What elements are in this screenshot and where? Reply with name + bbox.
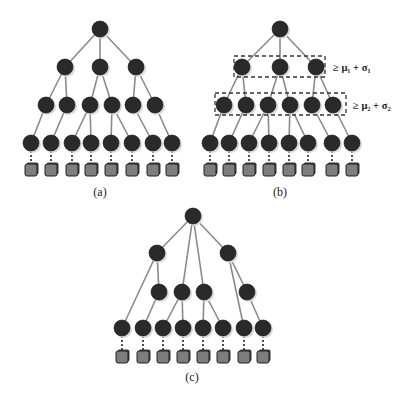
tree-node-level-2 <box>196 284 212 300</box>
leaf-square-icon <box>204 164 216 176</box>
tree-node-level-2 <box>174 284 190 300</box>
tree-node-level-1 <box>128 59 144 75</box>
tree-node-level-2 <box>282 97 298 113</box>
leaf-square-icon <box>238 351 250 363</box>
leaf-square-icon <box>257 351 269 363</box>
tree-node-level-3 <box>221 135 237 151</box>
leaf-square-icon <box>126 164 138 176</box>
leaf-square-icon <box>223 164 235 176</box>
leaf-square-icon <box>283 164 295 176</box>
tree-node-level-2 <box>59 97 75 113</box>
tree-node-level-3 <box>114 320 130 336</box>
threshold-label-1: ≥ μ₁ + σ₁ <box>333 62 371 73</box>
panel-b-thresholded-tree: ≥ μ₁ + σ₁≥ μ₂ + σ₂(b) <box>202 21 391 199</box>
tree-node-level-0 <box>92 21 108 37</box>
tree-edge <box>193 216 204 292</box>
leaf-square-icon <box>346 164 358 176</box>
nodes <box>114 208 273 338</box>
leaf-square-icon <box>105 164 117 176</box>
tree-node-level-3 <box>164 135 180 151</box>
tree-node-level-3 <box>23 135 39 151</box>
tree-node-level-1 <box>92 59 108 75</box>
leaf-square-icon <box>326 164 338 176</box>
tree-node-level-3 <box>43 135 59 151</box>
threshold-label-2: ≥ μ₂ + σ₂ <box>353 100 391 111</box>
leaf-square-icon <box>197 351 209 363</box>
leaf-square-icon <box>147 164 159 176</box>
panel-c-pruned-tree: (c) <box>114 208 273 384</box>
tree-node-level-2 <box>239 284 255 300</box>
leaf-square-icon <box>85 164 97 176</box>
tree-node-level-3 <box>215 320 231 336</box>
leaf-items <box>116 336 271 363</box>
tree-node-level-3 <box>145 135 161 151</box>
edges <box>210 29 352 143</box>
panel-caption-b: (b) <box>273 185 287 199</box>
tree-node-level-3 <box>281 135 297 151</box>
tree-node-level-1 <box>220 245 236 261</box>
tree-node-level-2 <box>216 97 232 113</box>
leaf-square-icon <box>157 351 169 363</box>
tree-node-level-0 <box>185 208 201 224</box>
leaf-square-icon <box>263 164 275 176</box>
leaf-square-icon <box>25 164 37 176</box>
leaf-square-icon <box>116 351 128 363</box>
hierarchy-diagram-figure: (a) ≥ μ₁ + σ₁≥ μ₂ + σ₂(b) (c) <box>0 0 414 398</box>
leaf-square-icon <box>66 164 78 176</box>
panel-caption-a: (a) <box>93 185 106 199</box>
tree-node-level-1 <box>308 59 324 75</box>
tree-node-level-2 <box>147 97 163 113</box>
tree-node-level-2 <box>38 97 54 113</box>
tree-node-level-3 <box>261 135 277 151</box>
tree-node-level-2 <box>238 97 254 113</box>
nodes <box>202 21 362 153</box>
tree-node-level-3 <box>155 320 171 336</box>
tree-node-level-1 <box>234 59 250 75</box>
leaf-square-icon <box>217 351 229 363</box>
tree-node-level-2 <box>125 97 141 113</box>
tree-node-level-3 <box>135 320 151 336</box>
panel-caption-c: (c) <box>185 370 198 384</box>
tree-node-level-3 <box>103 135 119 151</box>
leaf-square-icon <box>166 164 178 176</box>
panel-a-full-tree: (a) <box>23 21 182 199</box>
tree-node-level-1 <box>149 245 165 261</box>
tree-node-level-2 <box>325 97 341 113</box>
nodes <box>23 21 182 153</box>
tree-node-level-2 <box>260 97 276 113</box>
leaf-square-icon <box>177 351 189 363</box>
tree-node-level-1 <box>57 59 73 75</box>
tree-node-level-3 <box>241 135 257 151</box>
tree-node-level-2 <box>104 97 120 113</box>
tree-node-level-3 <box>344 135 360 151</box>
leaf-square-icon <box>45 164 57 176</box>
tree-node-level-3 <box>195 320 211 336</box>
tree-node-level-3 <box>175 320 191 336</box>
tree-node-level-1 <box>272 59 288 75</box>
tree-node-level-3 <box>255 320 271 336</box>
tree-node-level-3 <box>202 135 218 151</box>
tree-edge <box>182 216 193 292</box>
tree-node-level-3 <box>236 320 252 336</box>
edges <box>122 216 263 328</box>
tree-node-level-3 <box>124 135 140 151</box>
leaf-square-icon <box>243 164 255 176</box>
leaf-items <box>25 151 180 176</box>
tree-node-level-2 <box>151 284 167 300</box>
tree-node-level-0 <box>272 21 288 37</box>
leaf-square-icon <box>137 351 149 363</box>
tree-node-level-3 <box>324 135 340 151</box>
tree-node-level-3 <box>300 135 316 151</box>
tree-node-level-3 <box>83 135 99 151</box>
tree-node-level-2 <box>82 97 98 113</box>
edges <box>31 29 172 143</box>
leaf-items <box>204 151 360 176</box>
leaf-square-icon <box>302 164 314 176</box>
tree-node-level-3 <box>64 135 80 151</box>
tree-node-level-2 <box>304 97 320 113</box>
